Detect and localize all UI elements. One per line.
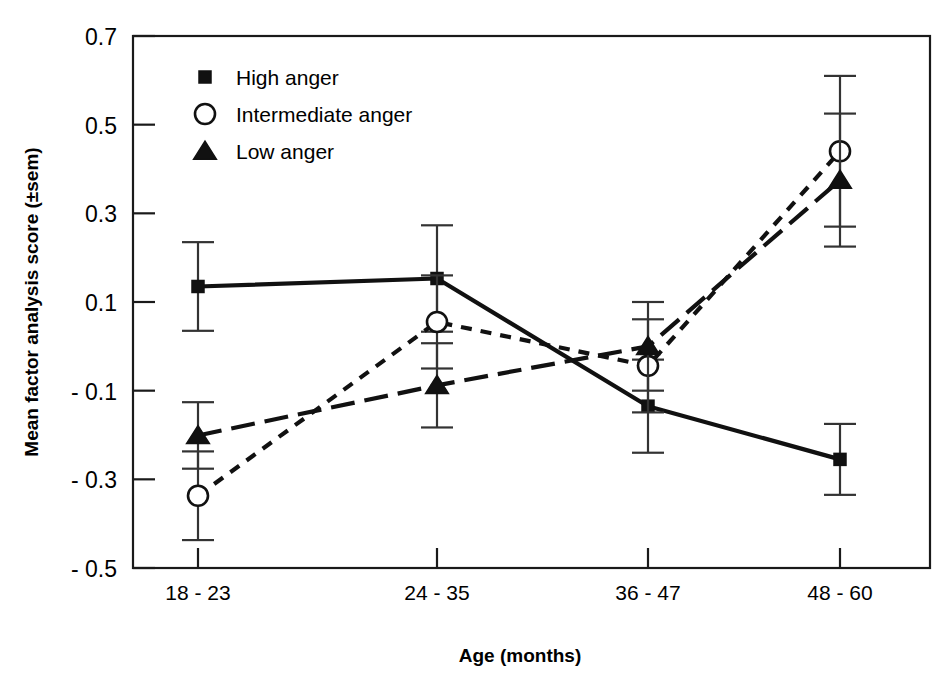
legend-label: Low anger — [236, 140, 334, 163]
y-tick-label: 0.3 — [85, 201, 117, 227]
x-tick-label: 36 - 47 — [615, 581, 680, 604]
legend-marker-filled-square — [199, 71, 211, 83]
y-tick-label: 0.1 — [85, 290, 117, 316]
x-axis-title: Age (months) — [459, 645, 581, 666]
legend-marker-open-circle — [195, 104, 215, 124]
x-tick-label: 48 - 60 — [807, 581, 872, 604]
chart-background — [0, 0, 950, 680]
y-tick-label: - 0.5 — [71, 556, 117, 582]
data-point-marker — [834, 453, 846, 465]
x-tick-label: 24 - 35 — [404, 581, 469, 604]
chart-figure: 0.70.50.30.1- 0.1- 0.3- 0.5 18 - 2324 - … — [0, 0, 950, 680]
x-tick-label: 18 - 23 — [165, 581, 230, 604]
y-tick-label: 0.7 — [85, 24, 117, 50]
line-chart-svg: 0.70.50.30.1- 0.1- 0.3- 0.5 18 - 2324 - … — [0, 0, 950, 680]
legend-label: High anger — [236, 66, 339, 89]
legend-label: Intermediate anger — [236, 103, 412, 126]
data-point-marker — [188, 486, 208, 506]
y-axis-title: Mean factor analysis score (±sem) — [21, 147, 42, 456]
figure-root: 0.70.50.30.1- 0.1- 0.3- 0.5 18 - 2324 - … — [0, 0, 950, 680]
y-tick-label: 0.5 — [85, 113, 117, 139]
data-point-marker — [427, 312, 447, 332]
data-point-marker — [192, 280, 204, 292]
y-tick-label: - 0.3 — [71, 467, 117, 493]
y-tick-label: - 0.1 — [71, 379, 117, 405]
